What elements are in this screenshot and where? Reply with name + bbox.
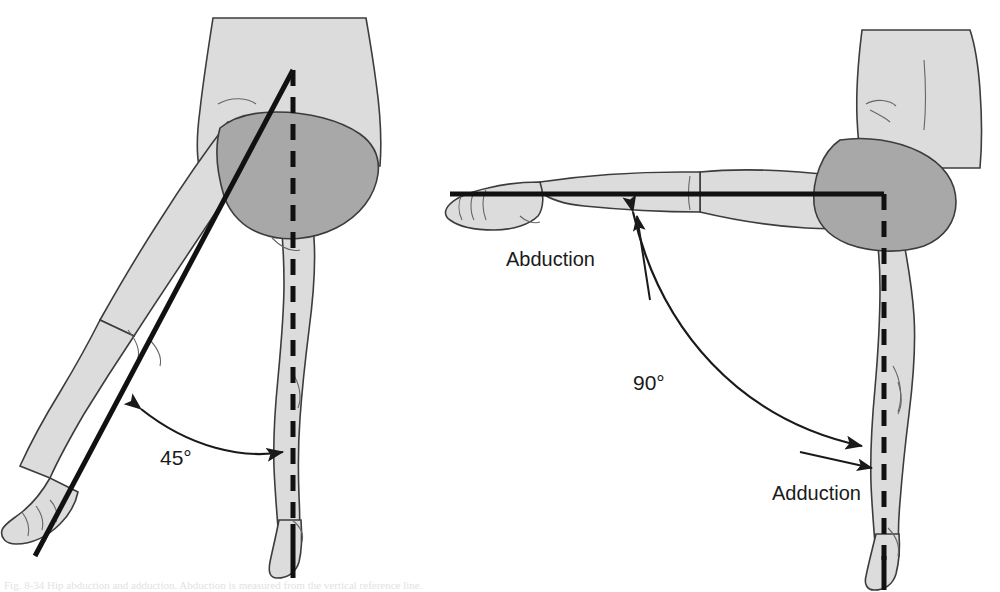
adduction-label: Adduction <box>772 482 861 504</box>
adduction-leader-line <box>800 452 872 468</box>
abduction-leader-line <box>637 216 650 300</box>
right-abducted-foot <box>446 182 543 230</box>
right-angle-label: 90° <box>633 371 665 394</box>
abduction-label: Abduction <box>506 248 595 270</box>
left-standing-foot <box>269 520 301 578</box>
left-pelvis-region <box>217 112 378 239</box>
caption-strip: Fig. 8-34 Hip abduction and adduction. A… <box>0 578 1000 592</box>
hip-rom-diagram: 45° <box>0 0 1000 592</box>
right-figure-body <box>446 30 982 590</box>
left-femur-axis-line <box>35 70 293 556</box>
anatomical-figure: 45° <box>0 0 1000 592</box>
left-angle-label: 45° <box>160 446 192 469</box>
right-angle-arc <box>633 212 862 446</box>
partial-caption-text: Fig. 8-34 Hip abduction and adduction. A… <box>0 578 1000 592</box>
right-standing-leg <box>871 222 915 556</box>
left-figure-body <box>2 18 381 578</box>
